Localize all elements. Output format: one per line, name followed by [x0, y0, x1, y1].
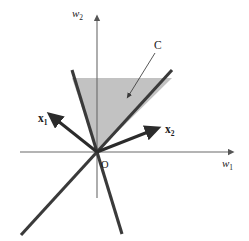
- origin-label-o: O: [101, 159, 109, 170]
- cone-label-c: C: [154, 39, 162, 51]
- vector-label-x1: x1: [38, 112, 48, 127]
- vector-label-x1-sub: 1: [44, 118, 48, 127]
- vector-label-x2-sub: 2: [171, 129, 175, 138]
- axis-label-w2: w2: [72, 7, 83, 22]
- axis-label-w1: w1: [222, 157, 233, 172]
- axis-label-w2-sub: 2: [79, 13, 83, 22]
- vector-label-x2: x2: [165, 123, 175, 138]
- cone-diagram-figure: w2 w1 x1 x2 C O: [0, 0, 249, 241]
- cone-diagram-svg: w2 w1 x1 x2 C O: [0, 0, 249, 241]
- axis-label-w1-sub: 1: [229, 163, 233, 172]
